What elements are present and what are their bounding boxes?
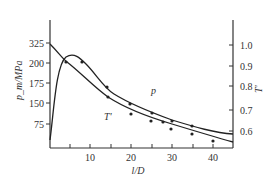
x-label: l/D	[132, 165, 146, 176]
y-right-tick: 0.6	[240, 126, 253, 137]
y-right-tick: 0.7	[240, 105, 253, 116]
y-left-label: p_m/MPa	[13, 61, 24, 101]
p-curve	[50, 55, 233, 140]
y-right-label: T'	[253, 84, 264, 93]
y-right-tick: 0.8	[240, 81, 253, 92]
y-tick: 175	[29, 78, 44, 89]
chart: 325 200 175 150 75 p_m/MPa 10 20 30 40 l…	[0, 0, 275, 184]
y-tick: 325	[29, 38, 44, 49]
y-tick: 150	[29, 98, 44, 109]
p-curve-label: p	[150, 85, 156, 96]
y-right-tick: 0.9	[240, 61, 253, 72]
x-tick: 10	[85, 152, 95, 163]
x-tick: 30	[167, 152, 177, 163]
t-curve	[50, 44, 233, 142]
t-curve-label: T'	[104, 111, 113, 122]
x-tick: 40	[208, 152, 218, 163]
y-tick: 200	[29, 58, 44, 69]
y-tick: 75	[34, 119, 44, 130]
y-right-tick: 1.0	[240, 40, 253, 51]
x-tick: 20	[126, 152, 136, 163]
